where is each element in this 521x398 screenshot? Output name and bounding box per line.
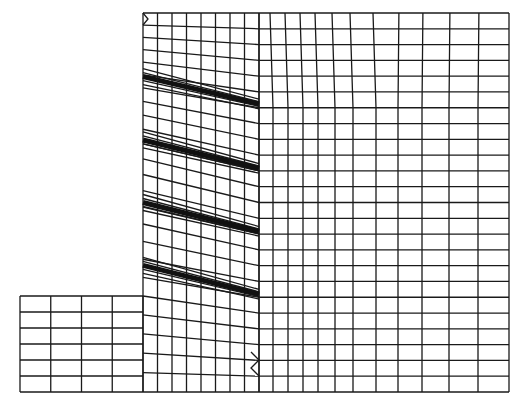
corner-element [143, 13, 148, 25]
transition-element [251, 352, 259, 376]
retained-soil-mesh [259, 13, 509, 392]
mesh-canvas [0, 0, 521, 398]
reinforced-zone-mesh [143, 13, 259, 392]
front-berm-mesh [20, 296, 143, 392]
